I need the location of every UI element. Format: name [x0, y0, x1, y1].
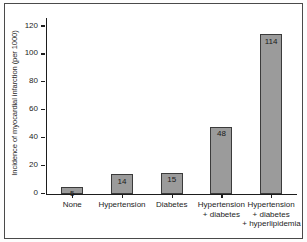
y-tick-label: 0	[0, 188, 38, 197]
x-tick-mark	[122, 194, 123, 198]
y-tick-mark	[41, 25, 45, 26]
y-tick-mark	[41, 165, 45, 166]
bar: 114	[260, 34, 282, 193]
bar: 15	[161, 173, 183, 194]
y-tick-mark	[41, 81, 45, 82]
bar-value-label: 114	[261, 37, 281, 46]
y-tick-label: 60	[0, 104, 38, 113]
bar: 14	[111, 174, 133, 194]
y-tick-label: 80	[0, 76, 38, 85]
y-tick-label: 40	[0, 132, 38, 141]
y-tick-mark	[41, 109, 45, 110]
y-tick-label: 20	[0, 160, 38, 169]
x-tick-mark	[172, 194, 173, 198]
bar-value-label: 5	[62, 189, 82, 198]
x-category-label: Hypertension+ diabetes+ hyperlipidemia	[242, 200, 300, 229]
bar-value-label: 15	[162, 175, 182, 184]
x-tick-mark	[271, 194, 272, 198]
y-tick-mark	[41, 193, 45, 194]
bar: 5	[61, 187, 83, 194]
y-tick-mark	[41, 53, 45, 54]
y-axis-line	[46, 18, 47, 195]
chart-figure: Incidence of myocardial infarction (per …	[0, 0, 307, 242]
x-tick-mark	[221, 194, 222, 198]
bar: 48	[210, 127, 232, 194]
y-tick-mark	[41, 137, 45, 138]
bar-value-label: 48	[211, 129, 231, 138]
y-tick-label: 100	[0, 48, 38, 57]
y-tick-label: 120	[0, 21, 38, 30]
bar-value-label: 14	[112, 177, 132, 186]
